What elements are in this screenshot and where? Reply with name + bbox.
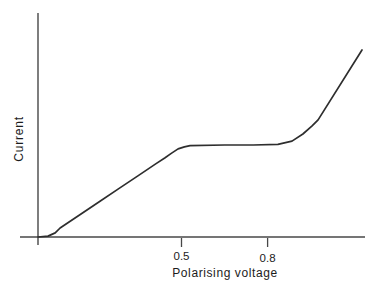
x-tick-label-0: 0.5 <box>174 250 190 262</box>
x-axis-label: Polarising voltage <box>172 266 278 280</box>
chart-figure: Current Polarising voltage 0.5 0.8 <box>0 0 377 296</box>
current-voltage-curve <box>38 50 362 237</box>
y-axis-label: Current <box>12 116 26 162</box>
x-tick-label-1: 0.8 <box>260 252 276 264</box>
